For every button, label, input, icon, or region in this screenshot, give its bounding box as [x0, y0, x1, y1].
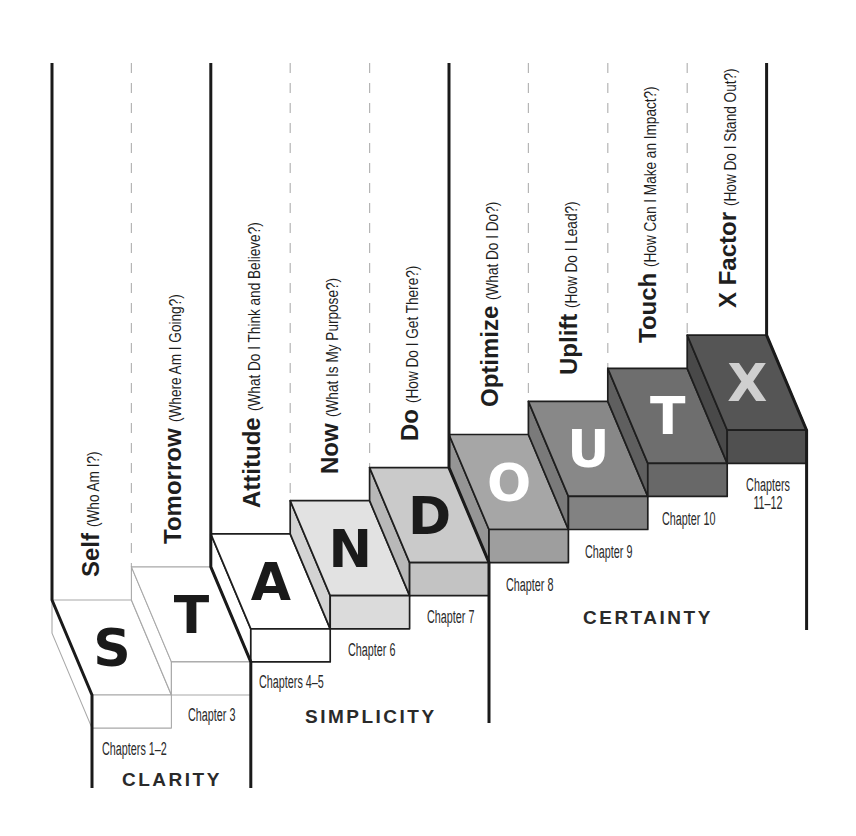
column-label-tomorrow: Tomorrow(Where Am I Going?): [161, 263, 185, 544]
step-letter: O: [487, 453, 531, 513]
column-label-uplift: Uplift(How Do I Lead?): [557, 174, 581, 375]
column-label-touch: Touch(How Can I Make an Impact?): [636, 41, 660, 343]
step-letter: X: [727, 353, 767, 413]
step-front-face: [92, 695, 171, 728]
column-label-do: Do(How Do I Get There?): [398, 231, 422, 441]
column-label-attitude: Attitude(What Do I Think and Believe?): [240, 175, 264, 508]
step-letter: U: [567, 419, 609, 479]
column-label-now: Now(What Is My Purpose?): [318, 244, 342, 475]
standout-staircase-diagram: S T A N D: [0, 0, 856, 836]
column-question: (Who Am I?): [82, 451, 106, 527]
chapter-label-line: Chapters: [744, 476, 792, 494]
chapter-label-n: Chapter 6: [348, 641, 395, 659]
column-question: (What Do I Do?): [481, 201, 505, 299]
column-word: Attitude: [238, 417, 265, 508]
column-question: (How Do I Stand Out?): [719, 68, 743, 206]
step-letter: D: [408, 486, 451, 546]
column-question: (How Do I Lead?): [560, 201, 584, 308]
column-word: Now: [316, 423, 343, 474]
step-front-face: [648, 463, 727, 496]
chapter-label-s: Chapters 1–2: [102, 740, 167, 758]
step-front-face: [251, 629, 330, 662]
step-letter: A: [251, 552, 291, 612]
chapter-label-line: 11–12: [744, 494, 792, 512]
column-word: Tomorrow: [159, 428, 186, 544]
chapter-label-d: Chapter 7: [427, 608, 474, 626]
column-question: (What Is My Purpose?): [321, 278, 345, 417]
column-word: Touch: [634, 273, 661, 343]
group-label-certainty: CERTAINTY: [583, 608, 713, 628]
step-front-face: [489, 530, 568, 563]
chapter-label-t: Chapter 3: [188, 706, 235, 724]
column-label-x-factor: X Factor(How Do I Stand Out?): [716, 34, 740, 308]
column-label-optimize: Optimize(What Do I Do?): [478, 177, 502, 407]
column-question: (How Do I Get There?): [401, 266, 425, 403]
step-letter: T: [650, 386, 686, 446]
column-word: Do: [396, 409, 423, 441]
step-letter: S: [93, 618, 130, 678]
step-letter: N: [328, 519, 372, 579]
column-label-self: Self(Who Am I?): [79, 433, 103, 577]
group-label-clarity: CLARITY: [122, 770, 222, 790]
step-front-face: [568, 496, 647, 529]
column-word: Uplift: [555, 314, 582, 375]
column-word: Self: [77, 533, 104, 577]
column-question: (How Can I Make an Impact?): [639, 86, 663, 267]
chapter-label-x: Chapters 11–12: [744, 476, 792, 512]
step-front-face: [727, 430, 806, 463]
step-front-face: [171, 662, 250, 695]
column-word: X Factor: [714, 212, 741, 308]
chapter-label-a: Chapters 4–5: [259, 673, 324, 691]
column-word: Optimize: [476, 306, 503, 407]
column-question: (Where Am I Going?): [164, 295, 188, 423]
group-label-simplicity: SIMPLICITY: [305, 707, 437, 727]
step-front-face: [410, 563, 489, 596]
step-letter: T: [174, 585, 210, 645]
divider-certainty-right: [767, 63, 807, 630]
chapter-label-o: Chapter 8: [506, 576, 553, 594]
column-question: (What Do I Think and Believe?): [243, 223, 267, 412]
chapter-label-u: Chapter 9: [585, 543, 632, 561]
step-front-face: [330, 596, 409, 629]
chapter-label-t2: Chapter 10: [662, 510, 715, 528]
